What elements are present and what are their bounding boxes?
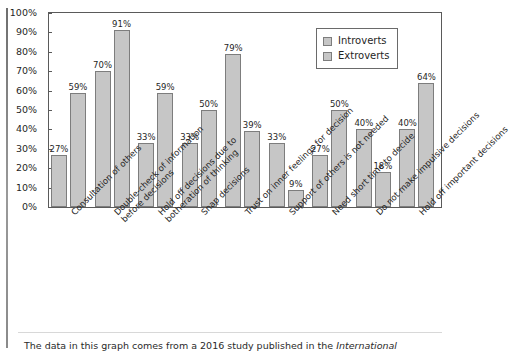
caption-text-before: The data in this graph comes from a 2016…	[24, 340, 336, 351]
y-axis-tick-label: 10%	[16, 182, 37, 194]
y-axis-tick-label: 90%	[16, 26, 37, 38]
y-axis-tick-label: 40%	[16, 123, 37, 135]
legend-item[interactable]: Introverts	[323, 34, 389, 48]
figure-caption: The data in this graph comes from a 2016…	[24, 339, 444, 352]
bar-extrovert	[70, 93, 86, 207]
bar-value-label: 64%	[406, 72, 446, 82]
y-axis-tick-label: 80%	[16, 46, 37, 58]
caption-divider	[18, 332, 442, 333]
y-axis-tick-label: 60%	[16, 85, 37, 97]
chart-legend: IntrovertsExtroverts	[316, 28, 398, 69]
legend-item-label: Extroverts	[338, 50, 389, 62]
caption-journal-name: International	[336, 340, 397, 351]
y-axis-tick-label: 50%	[16, 104, 37, 116]
y-axis-tick-label: 100%	[10, 7, 37, 19]
bar-group: 27%59%	[49, 13, 93, 207]
legend-item-label: Introverts	[338, 35, 387, 47]
bar-value-label: 33%	[257, 132, 297, 142]
y-axis-tick-label: 70%	[16, 65, 37, 77]
y-axis: 100%90%80%70%60%50%40%30%20%10%0%	[0, 12, 44, 208]
legend-item[interactable]: Extroverts	[323, 49, 389, 63]
y-axis-tick-label: 30%	[16, 143, 37, 155]
bar-value-label: 79%	[213, 43, 253, 53]
bar-extrovert	[114, 30, 130, 207]
y-axis-tick-label: 20%	[16, 162, 37, 174]
legend-swatch-icon	[323, 52, 332, 61]
bar-introvert	[51, 155, 67, 207]
bar-extrovert	[418, 83, 434, 207]
legend-swatch-icon	[323, 37, 332, 46]
x-axis-category-labels: Consultation of othersDouble-check of in…	[0, 208, 453, 328]
